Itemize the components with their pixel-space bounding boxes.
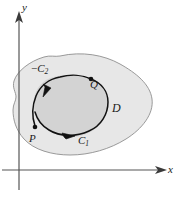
figure-canvas: y x −C2 Q D P C1 bbox=[0, 0, 180, 197]
curve-neg-c2-label: −C2 bbox=[31, 63, 48, 76]
y-axis-label: y bbox=[22, 2, 27, 13]
curve-neg-c2-base: C bbox=[37, 62, 44, 74]
curve-neg-c2-subscript: 2 bbox=[45, 67, 49, 76]
curve-c1-label: C1 bbox=[78, 135, 89, 148]
figure-svg bbox=[0, 0, 180, 197]
point-p-marker bbox=[33, 125, 38, 130]
point-q-label: Q bbox=[90, 79, 98, 90]
x-axis-label: x bbox=[168, 164, 173, 175]
point-p-label: P bbox=[29, 133, 36, 144]
region-d-label: D bbox=[112, 102, 121, 114]
curve-c1-subscript: 1 bbox=[85, 139, 89, 148]
